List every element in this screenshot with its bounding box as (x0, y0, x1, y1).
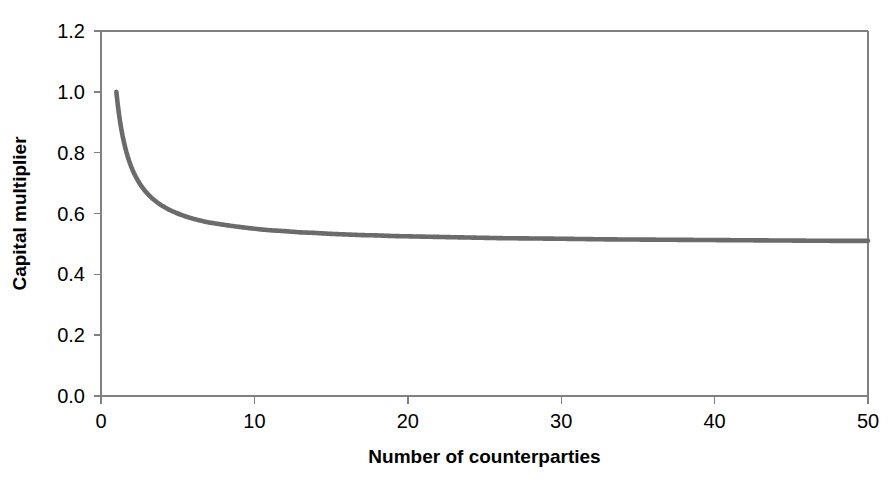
y-tick-label: 0.8 (57, 142, 85, 164)
y-tick-label: 0.0 (57, 385, 85, 407)
y-tick-label: 1.2 (57, 20, 85, 42)
y-tick-label: 0.4 (57, 263, 85, 285)
chart-canvas: 0.00.20.40.60.81.01.2 01020304050 Number… (0, 0, 896, 486)
chart-figure: 0.00.20.40.60.81.01.2 01020304050 Number… (0, 0, 896, 486)
chart-background (0, 0, 896, 486)
x-tick-label: 20 (397, 410, 419, 432)
y-tick-label: 1.0 (57, 81, 85, 103)
y-tick-label: 0.6 (57, 203, 85, 225)
x-tick-label: 30 (550, 410, 572, 432)
x-tick-label: 40 (703, 410, 725, 432)
x-tick-label: 10 (243, 410, 265, 432)
x-tick-label: 0 (95, 410, 106, 432)
y-axis-title: Capital multiplier (9, 136, 30, 291)
x-axis-title: Number of counterparties (368, 446, 600, 467)
x-tick-label: 50 (857, 410, 879, 432)
y-tick-label: 0.2 (57, 324, 85, 346)
